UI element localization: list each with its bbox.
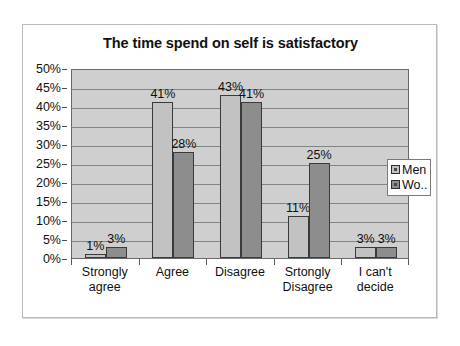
x-cat-label: I can'tdecide (341, 265, 409, 295)
x-cat-label: Agree (139, 265, 207, 280)
y-tick-label: 45% (36, 81, 61, 95)
bar-value-label: 3% (98, 232, 135, 246)
y-tick-label: 35% (36, 119, 61, 133)
y-tick-mark (62, 88, 67, 89)
y-tick-label: 15% (36, 195, 61, 209)
legend-item[interactable]: Men (391, 162, 427, 177)
bar-value-label: 41% (233, 87, 270, 101)
bar-value-label: 25% (301, 148, 338, 162)
y-tick-mark (62, 240, 67, 241)
x-cat-label-line: Disagree (274, 280, 342, 295)
x-cat-label-line: I can't (341, 265, 409, 280)
legend-label: Men (402, 163, 426, 177)
y-tick-label: 10% (36, 214, 61, 228)
y-tick-label: 20% (36, 176, 61, 190)
bar-men-0 (85, 254, 106, 258)
x-cat-label: Stronglyagree (71, 265, 139, 295)
x-axis-labels: StronglyagreeAgreeDisagreeSrtonglyDisagr… (71, 265, 409, 311)
y-tick-label: 40% (36, 100, 61, 114)
chart-title: The time spend on self is satisfactory (23, 35, 438, 51)
bar-value-label: 41% (144, 87, 181, 101)
legend-item[interactable]: Wo.. (391, 177, 427, 192)
bar-men-1 (152, 102, 173, 258)
x-cat-label-line: Srtongly (274, 265, 342, 280)
y-tick-mark (62, 145, 67, 146)
x-cat-label-line: Agree (139, 265, 207, 280)
bar-value-label: 3% (368, 232, 405, 246)
x-cat-label: Disagree (206, 265, 274, 280)
chart-legend: MenWo.. (387, 159, 431, 196)
legend-swatch-icon (391, 180, 400, 189)
bar-value-label: 28% (165, 137, 202, 151)
y-tick-mark (62, 126, 67, 127)
bar-men-2 (220, 95, 241, 258)
y-tick-mark (62, 69, 67, 70)
bar-wo-3 (309, 163, 330, 258)
bar-wo-4 (376, 247, 397, 258)
x-cat-label: SrtonglyDisagree (274, 265, 342, 295)
bar-wo-1 (173, 152, 194, 258)
y-tick-mark (62, 221, 67, 222)
x-cat-label-line: Strongly (71, 265, 139, 280)
y-tick-mark (62, 259, 67, 260)
y-tick-label: 5% (43, 233, 61, 247)
y-tick-label: 25% (36, 157, 61, 171)
plot-area: 1%3%41%28%43%41%11%25%3%3% (71, 69, 409, 259)
y-tick-mark (62, 183, 67, 184)
y-tick-mark (62, 164, 67, 165)
legend-label: Wo.. (402, 178, 427, 192)
y-axis: 50%45%40%35%30%25%20%15%10%5%0% (23, 69, 67, 259)
bar-men-4 (355, 247, 376, 258)
y-tick-mark (62, 107, 67, 108)
y-tick-mark (62, 202, 67, 203)
x-cat-label-line: decide (341, 280, 409, 295)
x-cat-label-line: agree (71, 280, 139, 295)
bar-wo-2 (241, 102, 262, 258)
bar-men-3 (288, 216, 309, 258)
y-tick-label: 0% (43, 252, 61, 266)
y-tick-label: 30% (36, 138, 61, 152)
x-cat-label-line: Disagree (206, 265, 274, 280)
y-tick-label: 50% (36, 62, 61, 76)
bar-wo-0 (106, 247, 127, 258)
chart-container: The time spend on self is satisfactory 5… (22, 24, 437, 318)
legend-swatch-icon (391, 165, 400, 174)
